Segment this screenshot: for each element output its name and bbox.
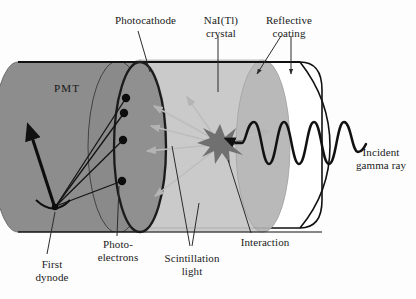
- label-first-dynode: First dynode: [22, 258, 82, 283]
- label-incident-gamma-ray: Incident gamma ray: [346, 146, 416, 171]
- label-interaction: Interaction: [220, 236, 310, 249]
- label-photocathode: Photocathode: [98, 14, 193, 27]
- label-nai-crystal: NaI(Tl) crystal: [192, 14, 250, 39]
- photocathode-face: [114, 62, 166, 232]
- label-pmt: PMT: [48, 82, 86, 95]
- label-scintillation-light: Scintillation light: [150, 252, 234, 277]
- label-reflective-coating: Reflective coating: [253, 14, 325, 39]
- figure-canvas: Photocathode NaI(Tl) crystal Reflective …: [0, 0, 416, 299]
- label-photoelectrons: Photo- electrons: [89, 238, 147, 263]
